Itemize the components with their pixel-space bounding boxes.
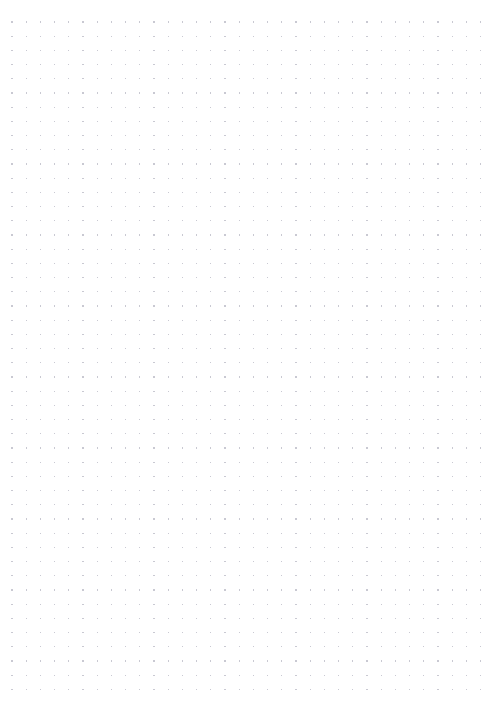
- page-surface[interactable]: [0, 0, 497, 714]
- page-content-text: [0, 0, 497, 714]
- dot-grid-page: [0, 0, 497, 714]
